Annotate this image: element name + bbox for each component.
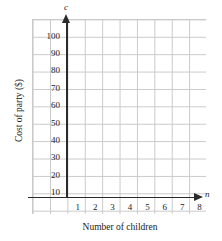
x-axis-tick-label: 1 [71,203,85,212]
y-axis-line [66,21,68,198]
chart-canvas: c n 100 90 80 70 60 50 40 30 20 10 1 2 3… [0,0,222,241]
y-axis-tick-label: 30 [38,153,60,162]
x-axis-tick-label: 5 [140,203,154,212]
x-axis-tick-label: 4 [123,203,137,212]
y-axis-tick-label: 40 [38,136,60,145]
x-axis-tick-label: 8 [193,203,207,212]
y-axis-tick-label: 100 [38,32,60,41]
x-axis-arrowhead-icon [194,193,203,201]
y-axis-tick-label: 90 [38,49,60,58]
y-axis-tick-label: 50 [38,119,60,128]
y-axis-tick-label: 80 [38,66,60,75]
y-axis-title: Cost of party ($) [14,51,25,171]
x-axis-tick-label: 7 [175,203,189,212]
x-axis-tick-label: 6 [158,203,172,212]
y-axis-tick-label: 10 [38,188,60,197]
y-axis-variable-label: c [64,3,68,12]
x-axis-variable-label: n [205,190,210,199]
y-axis-tick-label: 70 [38,84,60,93]
y-axis-tick-label: 20 [38,171,60,180]
y-axis-arrowhead-icon [62,14,70,23]
x-axis-title: Number of children [45,222,195,233]
x-axis-tick-label: 3 [106,203,120,212]
y-axis-tick-label: 60 [38,101,60,110]
x-axis-tick-label: 2 [88,203,102,212]
